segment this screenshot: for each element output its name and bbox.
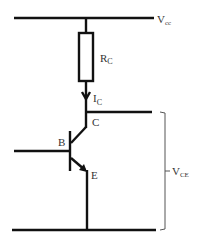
collector-label: C	[92, 116, 99, 128]
base-label: B	[58, 136, 65, 148]
vcc-label: Vcc	[157, 13, 171, 27]
transistor-collector-lead	[71, 127, 86, 143]
resistor-rc	[79, 33, 93, 81]
ic-label: IC	[93, 92, 102, 107]
vce-bracket	[160, 112, 165, 230]
circuit-diagram: Vcc RC IC C B E VCE	[0, 0, 205, 245]
vce-label: VCE	[172, 165, 189, 179]
emitter-label: E	[91, 169, 98, 181]
rc-label: RC	[100, 52, 113, 66]
